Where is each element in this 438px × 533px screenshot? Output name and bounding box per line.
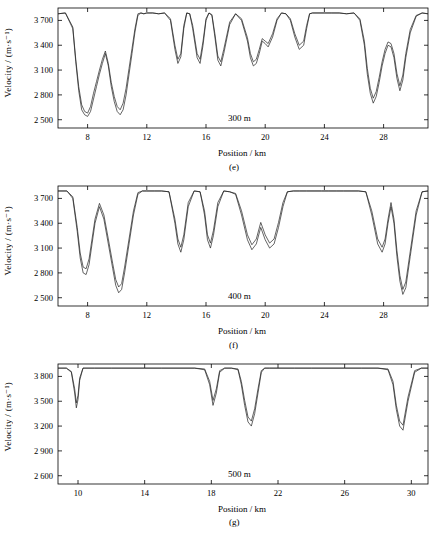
x-tick-label: 16 (202, 132, 211, 142)
y-tick-label: 3 800 (34, 371, 53, 381)
plot-frame (58, 364, 428, 484)
chart-panel-e: Velocity / (m·s⁻¹) 2 5002 8003 1003 4003… (0, 0, 438, 178)
y-tick-label: 2 800 (34, 90, 53, 100)
chart-panel-g: Velocity / (m·s⁻¹) 2 6002 9003 2003 5003… (0, 356, 438, 533)
x-tick-label: 30 (407, 488, 416, 498)
x-tick-label: 28 (379, 132, 388, 142)
plot-area-g: 2 6002 9003 2003 5003 800101418222630 (0, 356, 438, 506)
x-tick-label: 8 (85, 132, 89, 142)
y-tick-label: 3 400 (34, 218, 53, 228)
annotation-f: 400 m (228, 291, 251, 301)
x-tick-label: 26 (340, 488, 349, 498)
x-tick-label: 20 (261, 310, 270, 320)
y-tick-label: 3 700 (34, 193, 53, 203)
plot-svg-g: 2 6002 9003 2003 5003 800101418222630 (0, 356, 438, 506)
y-tick-label: 2 500 (34, 293, 53, 303)
x-tick-label: 8 (85, 310, 89, 320)
x-tick-label: 18 (207, 488, 216, 498)
panel-caption-g: (g) (229, 517, 240, 527)
annotation-g: 500 m (228, 469, 251, 479)
x-axis-label-e: Position / km (218, 148, 266, 158)
x-tick-label: 12 (143, 310, 152, 320)
figure-root: Velocity / (m·s⁻¹) 2 5002 8003 1003 4003… (0, 0, 438, 533)
plot-area-e: 2 5002 8003 1003 4003 70081216202428 (0, 0, 438, 150)
y-tick-label: 3 400 (34, 40, 53, 50)
x-tick-label: 16 (202, 310, 211, 320)
x-axis-label-g: Position / km (218, 504, 266, 514)
panel-caption-f: (f) (229, 340, 238, 350)
x-tick-label: 20 (261, 132, 270, 142)
x-tick-label: 12 (143, 132, 152, 142)
y-tick-label: 3 700 (34, 15, 53, 25)
x-tick-label: 10 (74, 488, 83, 498)
x-axis-label-f: Position / km (218, 326, 266, 336)
y-tick-label: 2 500 (34, 115, 53, 125)
y-tick-label: 3 200 (34, 421, 53, 431)
y-tick-label: 2 800 (34, 268, 53, 278)
panel-caption-e: (e) (229, 162, 239, 172)
y-tick-label: 3 500 (34, 396, 53, 406)
x-tick-label: 22 (274, 488, 283, 498)
y-tick-label: 2 600 (34, 471, 53, 481)
annotation-e: 300 m (228, 113, 251, 123)
plot-frame (58, 186, 428, 306)
y-tick-label: 3 100 (34, 243, 53, 253)
x-tick-label: 14 (140, 488, 149, 498)
y-tick-label: 2 900 (34, 446, 53, 456)
x-tick-label: 28 (379, 310, 388, 320)
plot-svg-f: 2 5002 8003 1003 4003 70081216202428 (0, 178, 438, 328)
plot-svg-e: 2 5002 8003 1003 4003 70081216202428 (0, 0, 438, 150)
y-tick-label: 3 100 (34, 65, 53, 75)
chart-panel-f: Velocity / (m·s⁻¹) 2 5002 8003 1003 4003… (0, 178, 438, 356)
plot-area-f: 2 5002 8003 1003 4003 70081216202428 (0, 178, 438, 328)
x-tick-label: 24 (320, 132, 329, 142)
x-tick-label: 24 (320, 310, 329, 320)
